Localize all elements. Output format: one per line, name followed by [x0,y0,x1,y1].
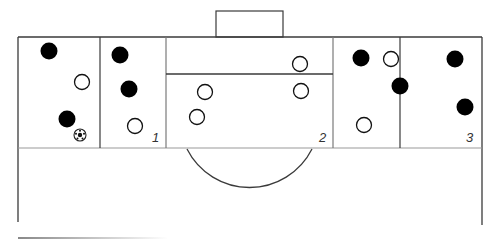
soccer-ball-icon [74,129,86,141]
zone-label-1: 1 [152,130,159,145]
dark-player-marker [457,99,474,116]
light-player-marker [198,85,213,100]
dark-player-marker [121,81,138,98]
light-player-marker [294,84,309,99]
dark-team-players [41,43,474,128]
bottom-edge [18,237,168,239]
zone-label-3: 3 [466,130,474,145]
light-player-marker [75,75,90,90]
light-player-marker [128,119,143,134]
light-player-marker [190,110,205,125]
penalty-arc [187,149,312,187]
light-player-marker [384,52,399,67]
light-player-marker [293,57,308,72]
dark-player-marker [112,47,129,64]
zone-label-2: 2 [318,130,327,145]
dark-player-marker [353,50,370,67]
dark-player-marker [447,51,464,68]
dark-player-marker [59,111,76,128]
goal [216,11,283,37]
dark-player-marker [41,43,58,60]
light-player-marker [357,118,372,133]
tactical-field-diagram: 1 2 3 [0,0,498,240]
dark-player-marker [392,78,409,95]
